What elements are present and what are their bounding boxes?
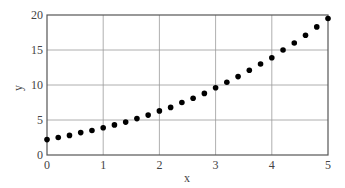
data-point xyxy=(247,68,253,74)
data-point xyxy=(224,79,230,85)
x-tick-label: 1 xyxy=(100,158,106,172)
data-point xyxy=(280,47,286,53)
data-point xyxy=(67,133,73,139)
data-point xyxy=(325,16,331,22)
y-tick-label: 5 xyxy=(37,113,43,127)
scatter-chart: 012345 05101520 x y xyxy=(0,0,345,188)
x-axis-label: x xyxy=(184,171,190,185)
data-point xyxy=(89,128,95,134)
data-point xyxy=(55,135,61,141)
data-point xyxy=(314,24,320,30)
data-point xyxy=(179,100,185,106)
y-tick-label: 0 xyxy=(37,148,43,162)
x-tick-label: 4 xyxy=(269,158,275,172)
y-tick-label: 10 xyxy=(31,78,43,92)
x-axis-ticks: 012345 xyxy=(44,158,331,172)
data-points xyxy=(44,16,331,143)
y-tick-label: 15 xyxy=(31,43,43,57)
data-point xyxy=(235,74,241,80)
data-point xyxy=(258,61,264,67)
x-tick-label: 2 xyxy=(156,158,162,172)
data-point xyxy=(190,96,196,102)
grid-lines xyxy=(47,15,328,155)
data-point xyxy=(303,33,309,39)
data-point xyxy=(134,116,140,122)
y-axis-label: y xyxy=(11,85,25,91)
data-point xyxy=(44,137,50,143)
data-point xyxy=(157,108,163,114)
x-tick-label: 3 xyxy=(213,158,219,172)
data-point xyxy=(291,40,297,46)
x-tick-label: 5 xyxy=(325,158,331,172)
y-axis-ticks: 05101520 xyxy=(31,8,43,162)
data-point xyxy=(100,125,106,131)
data-point xyxy=(145,112,151,118)
data-point xyxy=(123,119,129,125)
data-point xyxy=(78,130,84,136)
data-point xyxy=(213,85,219,91)
x-tick-label: 0 xyxy=(44,158,50,172)
data-point xyxy=(168,105,174,111)
data-point xyxy=(269,55,275,61)
y-tick-label: 20 xyxy=(31,8,43,22)
data-point xyxy=(202,91,208,97)
data-point xyxy=(112,122,118,128)
